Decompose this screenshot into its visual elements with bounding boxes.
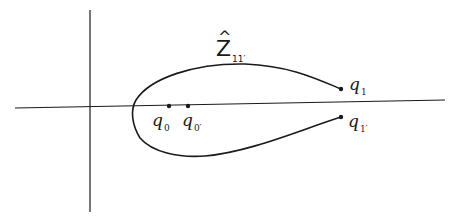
label-q0-main: q (152, 110, 163, 130)
real-axis (15, 100, 445, 108)
point-q1prime (339, 115, 343, 119)
label-q0prime: q0′ (182, 112, 202, 129)
hat-symbol: ^ (218, 29, 231, 45)
label-q1prime-main: q (348, 111, 359, 131)
point-q0prime (186, 104, 190, 108)
label-q0-sub: 0 (164, 123, 170, 133)
label-q1prime-sub: 1′ (360, 124, 368, 134)
label-q1prime: q1′ (348, 113, 368, 130)
label-q0prime-main: q (182, 110, 193, 130)
curve-z11prime (133, 64, 341, 156)
curve-label-subscript: 11′ (232, 54, 246, 64)
label-q0: q0 (152, 112, 170, 129)
point-q1 (339, 87, 343, 91)
point-q0 (167, 104, 171, 108)
label-q0prime-sub: 0′ (194, 123, 202, 133)
label-q1-main: q (349, 74, 360, 94)
label-q1-sub: 1 (361, 87, 367, 97)
curve-label: ^ Z 11′ (216, 38, 246, 60)
label-q1: q1 (349, 76, 367, 93)
